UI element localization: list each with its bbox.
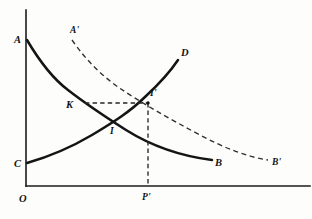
figure-root: A A' B B' C D I I' K O P' xyxy=(0,0,312,219)
label-D: D xyxy=(180,47,189,58)
label-O: O xyxy=(19,193,27,204)
supply-demand-diagram: A A' B B' C D I I' K O P' xyxy=(0,0,312,219)
label-K: K xyxy=(65,99,74,110)
label-A: A xyxy=(13,34,21,45)
label-B: B xyxy=(214,157,222,168)
label-C: C xyxy=(14,158,22,169)
equilibrium-node-iprime xyxy=(146,101,149,104)
shifted-demand-curve-AprimeBprime xyxy=(72,40,268,160)
label-A-prime: A' xyxy=(69,25,80,35)
label-B-prime: B' xyxy=(271,157,282,167)
label-P-prime: P' xyxy=(142,192,151,202)
label-I-prime: I' xyxy=(149,88,157,98)
demand-curve-AB xyxy=(27,40,212,160)
label-I: I xyxy=(109,126,114,136)
